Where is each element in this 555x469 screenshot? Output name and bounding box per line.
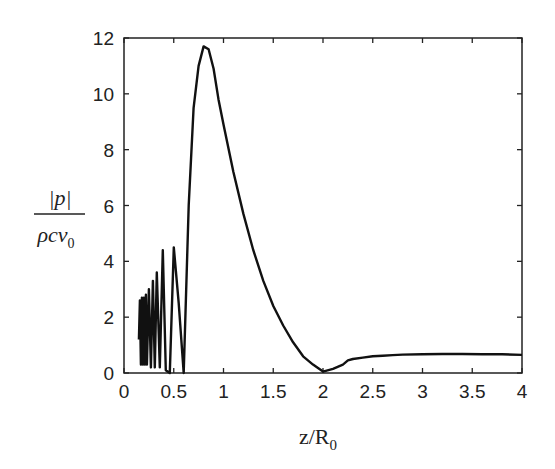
data-line bbox=[139, 46, 522, 373]
y-axis-label: |p| ρcv0 bbox=[34, 185, 85, 251]
axis-ticks bbox=[124, 38, 522, 373]
x-tick-label: 3 bbox=[417, 381, 428, 402]
x-tick-label: 1 bbox=[218, 381, 229, 402]
svg-text:ρcv0: ρcv0 bbox=[36, 222, 74, 251]
x-tick-label: 2.5 bbox=[360, 381, 386, 402]
x-tick-labels: 00.511.522.533.54 bbox=[119, 381, 528, 402]
x-axis-label: z/R0 bbox=[299, 424, 337, 453]
y-tick-label: 8 bbox=[103, 140, 114, 161]
x-tick-label: 0.5 bbox=[161, 381, 187, 402]
svg-text:|p|: |p| bbox=[48, 185, 71, 210]
x-tick-label: 4 bbox=[517, 381, 528, 402]
plot-area-frame bbox=[124, 38, 522, 373]
y-tick-label: 0 bbox=[103, 363, 114, 384]
y-tick-label: 12 bbox=[93, 28, 114, 49]
y-tick-label: 6 bbox=[103, 196, 114, 217]
y-tick-label: 10 bbox=[93, 84, 114, 105]
y-tick-labels: 024681012 bbox=[93, 28, 115, 384]
x-tick-label: 2 bbox=[318, 381, 329, 402]
x-tick-label: 0 bbox=[119, 381, 130, 402]
x-tick-label: 1.5 bbox=[260, 381, 286, 402]
y-tick-label: 4 bbox=[103, 251, 114, 272]
line-chart: 00.511.522.533.54 024681012 z/R0 |p| ρcv… bbox=[0, 0, 555, 469]
x-tick-label: 3.5 bbox=[459, 381, 485, 402]
y-tick-label: 2 bbox=[103, 307, 114, 328]
